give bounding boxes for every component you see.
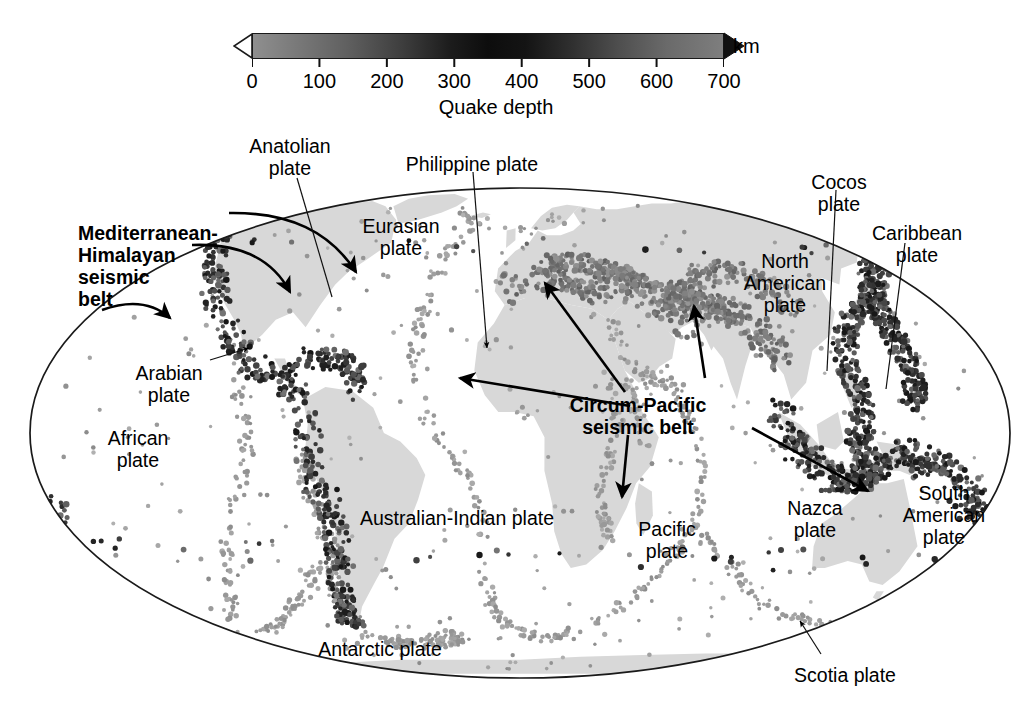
quake-point xyxy=(759,347,764,352)
quake-point xyxy=(210,637,215,642)
quake-point xyxy=(887,324,892,329)
quake-point xyxy=(209,425,212,428)
quake-point xyxy=(595,263,601,269)
quake-point xyxy=(244,349,248,353)
quake-point xyxy=(242,358,246,362)
quake-point xyxy=(772,413,777,418)
quake-point xyxy=(661,378,665,382)
quake-point xyxy=(281,625,285,629)
quake-point xyxy=(183,336,188,341)
quake-point xyxy=(749,617,753,621)
quake-point xyxy=(467,637,471,641)
quake-point xyxy=(929,592,935,598)
quake-point xyxy=(290,377,294,381)
quake-point xyxy=(311,459,316,464)
quake-point xyxy=(338,546,344,552)
quake-point xyxy=(807,621,811,625)
quake-point xyxy=(702,269,706,273)
quake-point xyxy=(358,389,362,393)
quake-point xyxy=(322,507,326,511)
quake-point xyxy=(778,547,784,553)
quake-point xyxy=(705,314,711,320)
quake-point xyxy=(461,240,466,245)
quake-point xyxy=(754,461,757,464)
quake-point xyxy=(460,640,465,645)
quake-point xyxy=(64,532,68,536)
quake-point xyxy=(243,470,248,475)
quake-point xyxy=(877,292,882,297)
quake-point xyxy=(231,377,236,382)
quake-point xyxy=(650,575,654,579)
quake-point xyxy=(726,318,732,324)
quake-point xyxy=(471,249,475,253)
quake-point xyxy=(786,435,790,439)
quake-point xyxy=(350,353,354,357)
quake-point xyxy=(877,640,881,644)
quake-point xyxy=(732,270,736,274)
quake-point xyxy=(510,624,514,628)
quake-point xyxy=(345,620,350,625)
quake-point xyxy=(925,472,930,477)
quake-point xyxy=(939,590,945,596)
quake-point xyxy=(253,362,260,369)
quake-point xyxy=(400,324,403,327)
quake-point xyxy=(871,644,875,648)
quake-point xyxy=(714,315,720,321)
quake-point xyxy=(235,415,239,419)
quake-point xyxy=(270,364,276,370)
colorbar-tick-label-200: 200 xyxy=(370,70,403,93)
quake-point xyxy=(395,625,399,629)
quake-point xyxy=(337,497,342,502)
quake-point xyxy=(68,577,73,582)
quake-point xyxy=(391,330,396,335)
quake-point xyxy=(534,226,538,230)
quake-point xyxy=(424,410,428,414)
quake-point xyxy=(954,578,958,582)
quake-point xyxy=(211,314,216,319)
quake-point xyxy=(199,639,203,643)
quake-point xyxy=(526,413,530,417)
quake-point xyxy=(503,288,509,294)
quake-point xyxy=(706,632,711,637)
quake-point xyxy=(792,447,798,453)
quake-point xyxy=(351,371,357,377)
quake-point xyxy=(640,302,644,306)
quake-point xyxy=(271,543,275,547)
quake-point xyxy=(669,383,674,388)
quake-point xyxy=(552,636,556,640)
quake-point xyxy=(719,299,725,305)
quake-point xyxy=(806,616,810,620)
quake-point xyxy=(742,330,748,336)
quake-point xyxy=(483,562,487,566)
quake-point xyxy=(851,478,857,484)
quake-point xyxy=(333,511,338,516)
quake-point xyxy=(847,339,853,345)
quake-point xyxy=(225,617,230,622)
quake-point xyxy=(394,587,398,591)
quake-point xyxy=(530,630,535,635)
quake-point xyxy=(650,599,654,603)
quake-point xyxy=(218,300,222,304)
quake-point xyxy=(42,508,47,513)
quake-point xyxy=(963,580,968,585)
quake-point xyxy=(418,417,422,421)
quake-point xyxy=(421,348,426,353)
quake-point xyxy=(660,288,664,292)
quake-point xyxy=(462,449,467,454)
quake-point xyxy=(224,287,230,293)
quake-point xyxy=(590,284,595,289)
quake-point xyxy=(763,329,769,335)
quake-point xyxy=(885,642,890,647)
quake-point xyxy=(906,463,910,467)
quake-point xyxy=(625,343,629,347)
quake-point xyxy=(712,260,717,265)
quake-point xyxy=(706,301,710,305)
quake-point xyxy=(370,633,374,637)
quake-point xyxy=(807,464,812,469)
quake-point xyxy=(313,471,319,477)
quake-point xyxy=(184,638,189,643)
quake-point xyxy=(322,530,326,534)
quake-point xyxy=(942,593,946,597)
quake-point xyxy=(244,366,250,372)
quake-point xyxy=(937,451,942,456)
